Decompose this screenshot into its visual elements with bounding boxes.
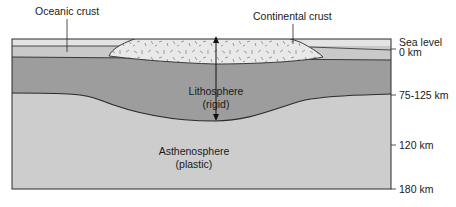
scale-label-75-125km: 75-125 km (399, 89, 449, 101)
asthenosphere-label: Asthenosphere (159, 145, 230, 157)
earth-cross-section-diagram: Oceanic crust Continental crust Lithosph… (0, 0, 456, 207)
scale-label-180km: 180 km (399, 183, 434, 195)
oceanic-crust-label: Oceanic crust (35, 5, 99, 17)
lithosphere-label: Lithosphere (189, 85, 244, 97)
scale-label-120km: 120 km (399, 139, 434, 151)
scale-label-0km: 0 km (399, 46, 422, 58)
continental-crust-label: Continental crust (253, 10, 332, 22)
lithosphere-sublabel: (rigid) (203, 98, 230, 110)
asthenosphere-sublabel: (plastic) (176, 158, 213, 170)
